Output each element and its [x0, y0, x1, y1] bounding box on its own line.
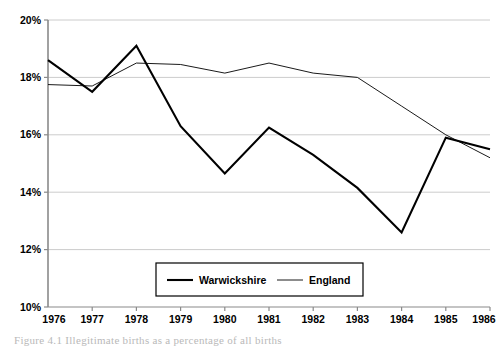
x-tick-label: 1977	[81, 313, 105, 325]
y-tick-label: 18%	[20, 71, 42, 83]
y-tick-label: 20%	[20, 14, 42, 26]
x-axis-tick-labels: 1976197719781979198019811982198319841985…	[42, 313, 496, 325]
x-tick-label: 1982	[302, 313, 326, 325]
y-tick-label: 14%	[20, 186, 42, 198]
figure-caption: Figure 4.1 Illegitimate births as a perc…	[14, 334, 282, 346]
x-tick-label: 1981	[257, 313, 281, 325]
y-tick-label: 12%	[20, 243, 42, 255]
x-tick-label: 1986	[472, 313, 496, 325]
chart-legend: Warwickshire England	[156, 263, 363, 296]
x-tick-label: 1983	[346, 313, 370, 325]
legend-label-warwickshire: Warwickshire	[199, 274, 266, 286]
x-tick-label: 1984	[390, 313, 414, 325]
x-tick-label: 1985	[434, 313, 458, 325]
x-tick-label: 1976	[42, 313, 66, 325]
x-tick-label: 1979	[169, 313, 193, 325]
y-axis-tick-labels: 10%12%14%16%18%20%	[20, 14, 42, 313]
legend-label-england: England	[309, 274, 350, 286]
y-tick-label: 16%	[20, 128, 42, 140]
x-tick-label: 1978	[125, 313, 149, 325]
y-tick-label: 10%	[20, 301, 42, 313]
x-tick-label: 1980	[213, 313, 237, 325]
